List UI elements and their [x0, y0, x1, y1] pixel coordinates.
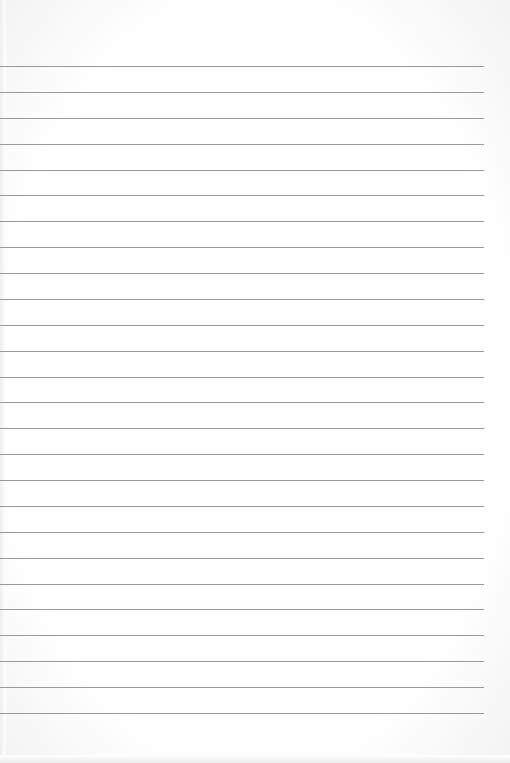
ruled-line — [0, 195, 484, 196]
ruled-line — [0, 247, 484, 248]
ruled-line — [0, 299, 484, 300]
ruled-line — [0, 351, 484, 352]
ruled-line — [0, 377, 484, 378]
ruled-line — [0, 66, 484, 67]
ruled-line — [0, 402, 484, 403]
ruled-line — [0, 661, 484, 662]
ruled-line — [0, 635, 484, 636]
lined-paper-sheet — [0, 0, 510, 763]
ruled-line — [0, 144, 484, 145]
ruled-line — [0, 118, 484, 119]
ruled-line — [0, 428, 484, 429]
ruled-line — [0, 713, 484, 714]
ruled-line — [0, 480, 484, 481]
ruled-line — [0, 687, 484, 688]
ruled-line — [0, 532, 484, 533]
ruled-line — [0, 92, 484, 93]
ruled-line — [0, 454, 484, 455]
ruled-line — [0, 506, 484, 507]
ruled-line — [0, 584, 484, 585]
paper-bottom-shadow — [0, 755, 510, 763]
ruled-line — [0, 221, 484, 222]
ruled-line — [0, 273, 484, 274]
paper-left-shadow — [0, 0, 6, 763]
ruled-line — [0, 558, 484, 559]
ruled-line — [0, 170, 484, 171]
ruled-line — [0, 609, 484, 610]
ruled-line — [0, 325, 484, 326]
